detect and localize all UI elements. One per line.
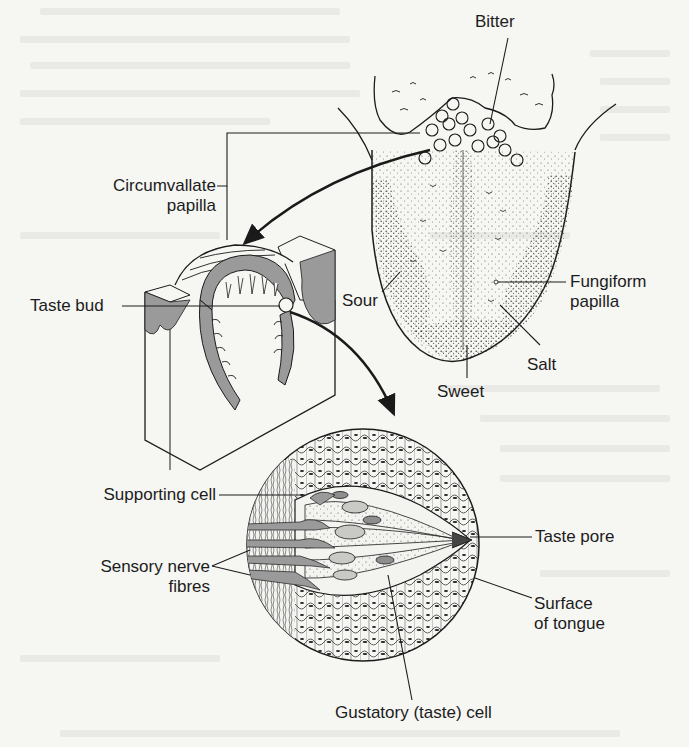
label-circumvallate-line2: papilla <box>60 196 216 215</box>
label-sweet: Sweet <box>437 382 484 401</box>
label-salt: Salt <box>527 355 556 374</box>
label-surface-line1: Surface <box>534 594 593 613</box>
label-sensory-nerve-line1: Sensory nerve <box>40 557 210 576</box>
label-surface-line2: of tongue <box>534 614 605 633</box>
taste-bud-detail-illustration <box>245 429 479 661</box>
label-bitter: Bitter <box>475 12 515 31</box>
tongue-illustration <box>338 73 616 362</box>
label-fungiform-line2: papilla <box>570 292 619 311</box>
label-circumvallate-line1: Circumvallate <box>60 176 216 195</box>
papilla-section-illustration <box>145 236 335 470</box>
label-sensory-nerve-line2: fibres <box>40 577 210 596</box>
label-sour: Sour <box>342 291 378 310</box>
label-taste-pore: Taste pore <box>535 527 614 546</box>
label-fungiform-line1: Fungiform <box>570 272 647 291</box>
diagram-artwork <box>0 0 689 747</box>
label-taste-bud: Taste bud <box>30 296 104 315</box>
label-supporting-cell: Supporting cell <box>40 485 216 504</box>
label-gustatory-cell: Gustatory (taste) cell <box>335 703 492 722</box>
